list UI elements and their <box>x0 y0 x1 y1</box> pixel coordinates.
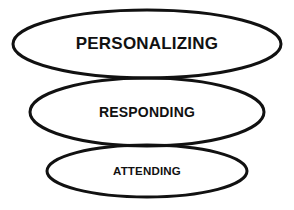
stacked-ellipses-diagram: PERSONALIZING RESPONDING ATTENDING <box>0 0 294 210</box>
ellipse-group-personalizing[interactable]: PERSONALIZING <box>13 10 281 78</box>
ellipse-group-responding[interactable]: RESPONDING <box>30 78 264 146</box>
ellipse-label-attending: ATTENDING <box>113 165 181 177</box>
ellipse-label-personalizing: PERSONALIZING <box>76 34 218 53</box>
ellipse-group-attending[interactable]: ATTENDING <box>47 145 247 197</box>
ellipse-label-responding: RESPONDING <box>99 104 195 120</box>
diagram-canvas: PERSONALIZING RESPONDING ATTENDING <box>0 0 294 210</box>
